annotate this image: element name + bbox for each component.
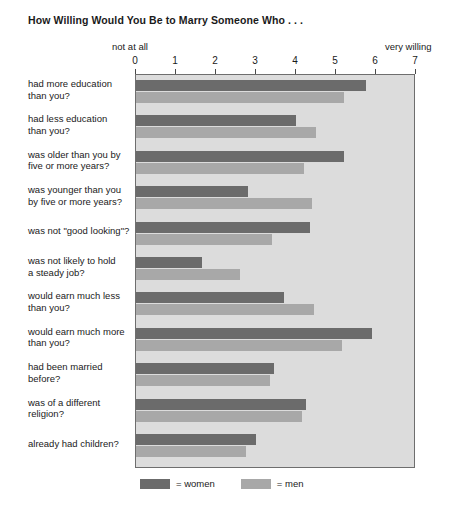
category-label: had been marriedbefore? <box>28 361 132 384</box>
x-tick-label-3: 3 <box>245 55 265 66</box>
category-label-line: had more education <box>28 78 132 90</box>
category-label-line: before? <box>28 373 132 385</box>
category-label-line: was of a different <box>28 397 132 409</box>
category-label-line: would earn much less <box>28 290 132 302</box>
chart-title: How Willing Would You Be to Marry Someon… <box>28 14 303 26</box>
x-tick-label-4: 4 <box>285 55 305 66</box>
category-label-line: already had children? <box>28 438 132 450</box>
bar-group <box>136 257 414 280</box>
legend-swatch <box>140 479 170 489</box>
legend-item-women: = women <box>140 478 215 489</box>
bar-group <box>136 151 414 174</box>
bar-women <box>136 399 306 410</box>
category-label-line: had been married <box>28 361 132 373</box>
legend-item-men: = men <box>241 478 304 489</box>
bar-men <box>136 446 246 457</box>
bar-men <box>136 269 240 280</box>
bar-group <box>136 186 414 209</box>
bar-men <box>136 127 316 138</box>
x-tick-label-0: 0 <box>125 55 145 66</box>
legend-label: = women <box>176 478 215 489</box>
category-label-line: was not "good looking"? <box>28 225 132 237</box>
bar-group <box>136 222 414 245</box>
category-label: already had children? <box>28 438 132 450</box>
bar-women <box>136 363 274 374</box>
bar-group <box>136 434 414 457</box>
category-label-line: was older than you by <box>28 149 132 161</box>
bar-women <box>136 222 310 233</box>
bar-group <box>136 115 414 138</box>
bar-women <box>136 434 256 445</box>
bar-men <box>136 304 314 315</box>
category-label-line: by five or more years? <box>28 196 132 208</box>
category-label-line: than you? <box>28 125 132 137</box>
axis-high-caption: very willing <box>385 41 431 52</box>
bar-women <box>136 186 248 197</box>
axis-low-caption: not at all <box>112 41 148 52</box>
bar-group <box>136 363 414 386</box>
bar-men <box>136 375 270 386</box>
category-label: would earn much morethan you? <box>28 326 132 349</box>
bar-women <box>136 80 366 91</box>
x-tick-label-6: 6 <box>365 55 385 66</box>
plot-area <box>135 74 415 468</box>
bar-men <box>136 92 344 103</box>
x-tick-mark-7 <box>415 69 416 74</box>
bar-men <box>136 234 272 245</box>
category-label-line: was younger than you <box>28 184 132 196</box>
legend-swatch <box>241 479 271 489</box>
bar-men <box>136 163 304 174</box>
bar-men <box>136 340 342 351</box>
bar-women <box>136 115 296 126</box>
x-tick-label-7: 7 <box>405 55 425 66</box>
bar-group <box>136 399 414 422</box>
bar-women <box>136 151 344 162</box>
bar-group <box>136 80 414 103</box>
category-label: was of a differentreligion? <box>28 397 132 420</box>
category-label-line: a steady job? <box>28 267 132 279</box>
category-label: was older than you byfive or more years? <box>28 149 132 172</box>
bar-group <box>136 292 414 315</box>
bar-men <box>136 411 302 422</box>
legend-label: = men <box>277 478 304 489</box>
category-label: had more educationthan you? <box>28 78 132 101</box>
category-label-line: would earn much more <box>28 326 132 338</box>
bar-women <box>136 257 202 268</box>
bar-women <box>136 328 372 339</box>
category-label-line: than you? <box>28 337 132 349</box>
category-label: was younger than youby five or more year… <box>28 184 132 207</box>
category-label-line: was not likely to hold <box>28 255 132 267</box>
category-label-line: five or more years? <box>28 160 132 172</box>
x-tick-label-5: 5 <box>325 55 345 66</box>
category-label: would earn much lessthan you? <box>28 290 132 313</box>
bar-men <box>136 198 312 209</box>
bar-women <box>136 292 284 303</box>
x-tick-label-1: 1 <box>165 55 185 66</box>
x-tick-label-2: 2 <box>205 55 225 66</box>
chart-legend: = women= men <box>140 478 303 489</box>
category-label-line: than you? <box>28 90 132 102</box>
bar-group <box>136 328 414 351</box>
category-label-line: religion? <box>28 408 132 420</box>
category-label-line: than you? <box>28 302 132 314</box>
category-label: was not likely to holda steady job? <box>28 255 132 278</box>
chart-container: How Willing Would You Be to Marry Someon… <box>0 0 450 509</box>
category-label: had less educationthan you? <box>28 113 132 136</box>
category-label-line: had less education <box>28 113 132 125</box>
category-label: was not "good looking"? <box>28 225 132 237</box>
